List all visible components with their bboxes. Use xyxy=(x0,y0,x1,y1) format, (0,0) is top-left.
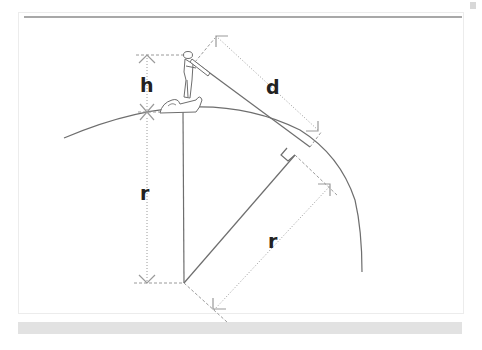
distance-dimension xyxy=(195,36,322,147)
right-angle-marker xyxy=(281,148,295,161)
line-of-sight xyxy=(195,62,310,147)
earth-surface-arc xyxy=(64,107,362,272)
label-r-vertical: r xyxy=(140,182,150,204)
label-d: d xyxy=(266,76,280,98)
horizon-diagram: h r d r xyxy=(0,0,482,350)
vertical-radius-line xyxy=(183,111,184,283)
label-r-diagonal: r xyxy=(268,230,278,252)
observer-figure-icon xyxy=(184,52,211,99)
label-h: h xyxy=(140,74,154,96)
diagonal-radius-dimension xyxy=(184,155,338,322)
diagonal-radius-line xyxy=(184,155,295,283)
rock-icon xyxy=(160,97,202,113)
